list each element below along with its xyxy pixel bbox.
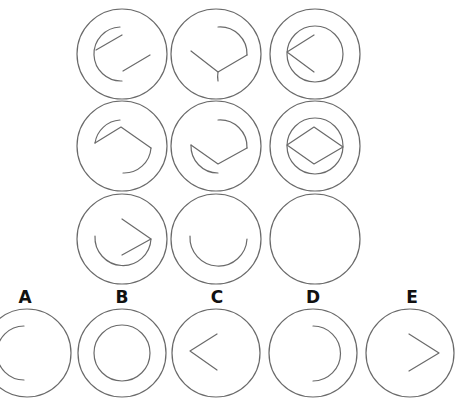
cell-r1c3	[270, 9, 360, 99]
option-b[interactable]	[78, 309, 166, 397]
cell-r1c1	[77, 9, 167, 99]
cell-r2c1	[77, 101, 167, 191]
option-label-a: A	[18, 287, 32, 307]
cell-r2c2	[171, 101, 261, 191]
cell-r3c2	[171, 194, 261, 284]
option-label-d: D	[306, 287, 320, 307]
option-label-e: E	[406, 287, 418, 307]
option-c[interactable]	[172, 309, 260, 397]
cell-r2c3	[270, 101, 360, 191]
cell-r3c3-missing	[270, 194, 360, 284]
cell-r1c2	[171, 9, 261, 99]
cell-r3c1	[77, 194, 167, 284]
option-label-c: C	[211, 287, 223, 307]
option-a[interactable]	[0, 309, 71, 397]
option-e[interactable]	[366, 309, 454, 397]
option-label-b: B	[116, 287, 129, 307]
option-d[interactable]	[269, 309, 357, 397]
matrix-puzzle: A B C D E	[0, 0, 461, 408]
